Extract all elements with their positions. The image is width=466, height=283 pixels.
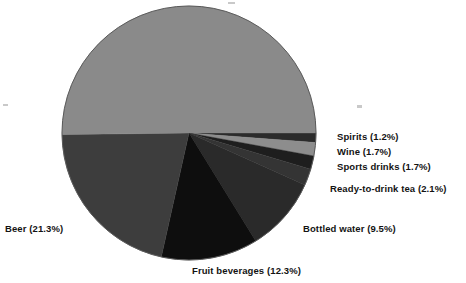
pie-label-beer: Beer (21.3%) bbox=[5, 223, 63, 234]
pie-slice-group bbox=[62, 6, 316, 260]
scan-speck-top bbox=[228, 2, 235, 4]
pie-chart: Spirits (1.2%) Wine (1.7%) Sports drinks… bbox=[0, 0, 466, 283]
scan-speck-left bbox=[3, 104, 8, 106]
pie-label-bottled-water: Bottled water (9.5%) bbox=[303, 223, 396, 234]
pie-label-ready-to-drink-tea: Ready-to-drink tea (2.1%) bbox=[330, 183, 447, 194]
scan-speck-right bbox=[357, 105, 362, 108]
pie-label-sports-drinks: Sports drinks (1.7%) bbox=[337, 161, 431, 172]
pie-label-spirits: Spirits (1.2%) bbox=[337, 131, 399, 142]
pie-slice-carbonated-soft-drinks bbox=[62, 6, 316, 135]
pie-label-fruit-beverages: Fruit beverages (12.3%) bbox=[192, 265, 301, 276]
pie-label-wine: Wine (1.7%) bbox=[337, 146, 391, 157]
